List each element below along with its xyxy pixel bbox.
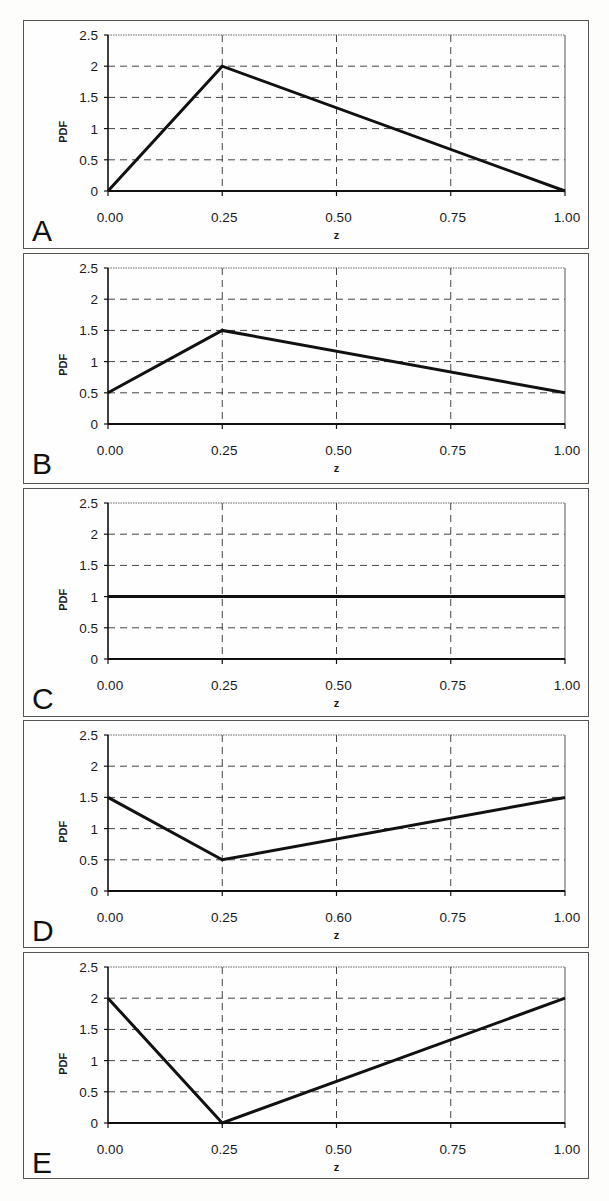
- x-tick-label: 0.50: [325, 1142, 351, 1157]
- y-tick-label: 0.5: [79, 386, 98, 401]
- x-axis-title: z: [334, 697, 340, 709]
- x-tick-label: 0.25: [211, 910, 237, 925]
- y-tick-label: 2: [90, 292, 98, 307]
- x-tick-label: 1.00: [554, 210, 580, 225]
- y-tick-label: 0: [90, 184, 98, 199]
- axes: 00.511.522.50.000.250.500.751.00: [79, 960, 580, 1157]
- y-tick-label: 2: [90, 527, 98, 542]
- y-tick-label: 2.5: [79, 728, 98, 743]
- x-axis-title: z: [334, 929, 340, 941]
- x-tick-label: 0.75: [440, 910, 466, 925]
- x-tick-label: 0.50: [325, 210, 351, 225]
- y-tick-label: 1: [90, 122, 98, 137]
- y-tick-label: 2.5: [79, 496, 98, 511]
- x-tick-label: 1.00: [554, 1142, 580, 1157]
- x-tick-label: 0.75: [440, 443, 466, 458]
- y-tick-label: 0: [90, 1116, 98, 1131]
- x-axis-title: z: [334, 229, 340, 241]
- x-tick-label: 0.75: [440, 678, 466, 693]
- y-tick-label: 1.5: [79, 558, 98, 573]
- y-axis-title: PDF: [57, 1052, 69, 1074]
- chart-svg: 00.511.522.50.000.250.500.751.00PDFzC: [24, 489, 590, 718]
- y-axis-title: PDF: [57, 820, 69, 842]
- x-tick-label: 0.75: [440, 210, 466, 225]
- y-tick-label: 1: [90, 355, 98, 370]
- x-tick-label: 0.25: [211, 443, 237, 458]
- y-tick-label: 2.5: [79, 261, 98, 276]
- panel-label: D: [32, 914, 54, 947]
- y-tick-label: 1: [90, 1054, 98, 1069]
- x-tick-label: 0.25: [211, 678, 237, 693]
- x-tick-label: 0.50: [325, 678, 351, 693]
- y-axis-title: PDF: [57, 588, 69, 610]
- y-tick-label: 2.5: [79, 28, 98, 43]
- chart-panel-e: 00.511.522.50.000.250.500.751.00PDFzE: [23, 952, 589, 1179]
- y-tick-label: 0: [90, 417, 98, 432]
- x-tick-label: 0.75: [440, 1142, 466, 1157]
- chart-panel-b: 00.511.522.50.000.250.500.751.00PDFzB: [23, 253, 589, 484]
- panel-label: A: [32, 214, 52, 247]
- x-tick-label: 0.00: [97, 1142, 123, 1157]
- y-tick-label: 1: [90, 822, 98, 837]
- chart-svg: 00.511.522.50.000.250.500.751.00PDFzB: [24, 254, 590, 485]
- y-tick-label: 2: [90, 759, 98, 774]
- x-tick-label: 0.00: [97, 443, 123, 458]
- axes: 00.511.522.50.000.250.500.751.00: [79, 496, 580, 693]
- x-tick-label: 1.00: [554, 910, 580, 925]
- y-tick-label: 0.5: [79, 853, 98, 868]
- panel-label: B: [32, 447, 52, 480]
- y-tick-label: 0: [90, 652, 98, 667]
- y-tick-label: 1.5: [79, 323, 98, 338]
- y-tick-label: 1.5: [79, 1022, 98, 1037]
- chart-svg: 00.511.522.50.000.250.500.751.00PDFzE: [24, 953, 590, 1180]
- gridlines: [108, 735, 565, 891]
- x-tick-label: 0.60: [325, 910, 351, 925]
- y-tick-label: 2.5: [79, 960, 98, 975]
- gridlines: [108, 268, 565, 424]
- x-tick-label: 1.00: [554, 678, 580, 693]
- x-tick-label: 0.00: [97, 678, 123, 693]
- axes: 00.511.522.50.000.250.600.751.00: [79, 728, 580, 925]
- axes: 00.511.522.50.000.250.500.751.00: [79, 28, 580, 225]
- panel-label: E: [32, 1146, 52, 1179]
- gridlines: [108, 967, 565, 1123]
- y-tick-label: 0.5: [79, 621, 98, 636]
- gridlines: [108, 503, 565, 659]
- y-axis-title: PDF: [57, 120, 69, 142]
- chart-svg: 00.511.522.50.000.250.500.751.00PDFzA: [24, 21, 590, 250]
- x-axis-title: z: [334, 1161, 340, 1173]
- y-tick-label: 0: [90, 884, 98, 899]
- y-tick-label: 0.5: [79, 1085, 98, 1100]
- panel-label: C: [32, 682, 54, 715]
- x-tick-label: 0.25: [211, 1142, 237, 1157]
- chart-svg: 00.511.522.50.000.250.600.751.00PDFzD: [24, 721, 590, 949]
- x-tick-label: 1.00: [554, 443, 580, 458]
- y-tick-label: 0.5: [79, 153, 98, 168]
- y-tick-label: 2: [90, 991, 98, 1006]
- x-tick-label: 0.00: [97, 210, 123, 225]
- x-tick-label: 0.50: [325, 443, 351, 458]
- chart-panel-a: 00.511.522.50.000.250.500.751.00PDFzA: [23, 20, 589, 249]
- x-tick-label: 0.00: [97, 910, 123, 925]
- y-tick-label: 2: [90, 59, 98, 74]
- chart-panel-d: 00.511.522.50.000.250.600.751.00PDFzD: [23, 720, 589, 948]
- x-tick-label: 0.25: [211, 210, 237, 225]
- y-tick-label: 1.5: [79, 90, 98, 105]
- x-axis-title: z: [334, 462, 340, 474]
- y-axis-title: PDF: [57, 353, 69, 375]
- y-tick-label: 1.5: [79, 790, 98, 805]
- chart-panel-c: 00.511.522.50.000.250.500.751.00PDFzC: [23, 488, 589, 717]
- y-tick-label: 1: [90, 590, 98, 605]
- axes: 00.511.522.50.000.250.500.751.00: [79, 261, 580, 458]
